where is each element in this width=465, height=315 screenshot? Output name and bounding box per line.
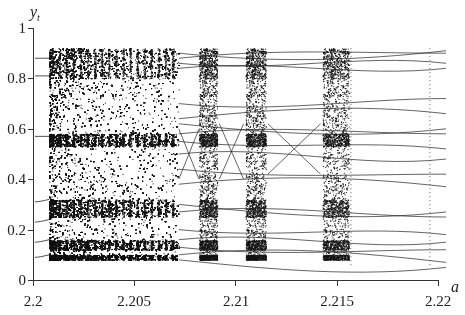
- y-tick-0.4: 0.4: [0, 172, 26, 187]
- y-tick-0.2: 0.2: [0, 223, 26, 238]
- bifurcation-chart: yt a 1 0.8 0.6 0.4 0.2 0 2.2 2.205 2.21 …: [0, 0, 465, 315]
- plot-area: [0, 0, 465, 315]
- y-axis-label: yt: [30, 4, 40, 25]
- x-tick-2.2: 2.2: [24, 294, 43, 309]
- x-tick-2.21: 2.21: [223, 294, 249, 309]
- x-tick-2.22: 2.22: [425, 294, 451, 309]
- x-tick-2.215: 2.215: [320, 294, 354, 309]
- y-tick-0.8: 0.8: [0, 71, 26, 86]
- y-tick-0: 0: [0, 273, 26, 288]
- y-tick-1: 1: [0, 21, 26, 36]
- y-tick-0.6: 0.6: [0, 122, 26, 137]
- x-tick-2.205: 2.205: [117, 294, 151, 309]
- x-axis-label: a: [451, 279, 459, 294]
